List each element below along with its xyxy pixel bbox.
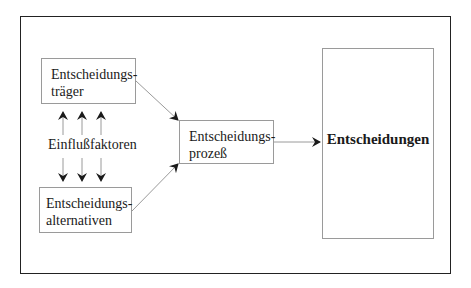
einflussfaktoren-label: Einflußfaktoren <box>48 137 137 153</box>
node-label-line2: träger <box>51 83 135 100</box>
node-label: Entscheidungen <box>323 131 433 148</box>
node-entscheidungsprozess: Entscheidungs- prozeß <box>179 120 274 164</box>
node-entscheidungen: Entscheidungen <box>322 48 434 239</box>
arrow-alternativen-to-prozess <box>132 164 178 211</box>
node-entscheidungstraeger: Entscheidungs- träger <box>41 58 136 104</box>
node-label-line2: prozeß <box>189 145 273 162</box>
node-entscheidungsalternativen: Entscheidungs- alternativen <box>39 187 132 233</box>
node-label-line2: alternativen <box>46 212 131 229</box>
node-label-line1: Entscheidungs- <box>189 128 273 145</box>
node-label-line1: Entscheidungs- <box>51 66 135 83</box>
node-label-line1: Entscheidungs- <box>46 195 131 212</box>
arrow-traeger-to-prozess <box>136 81 178 120</box>
